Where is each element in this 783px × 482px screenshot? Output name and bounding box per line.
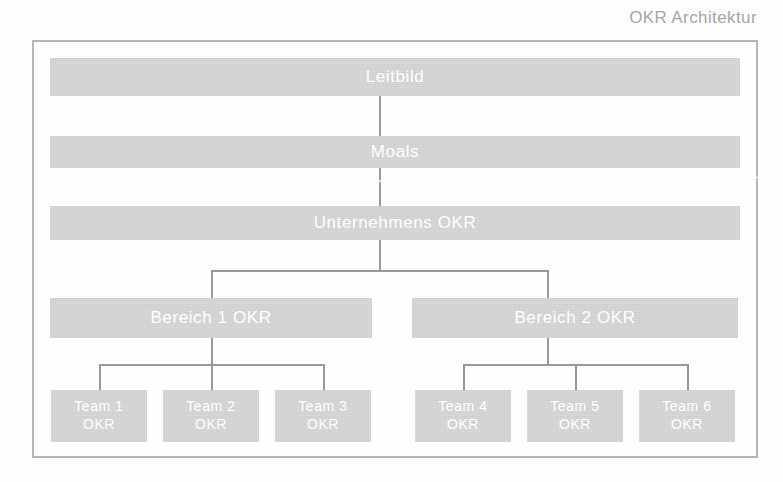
node-team-4-line1: Team 4 — [438, 398, 488, 414]
connector-bereich-1-stem — [211, 338, 213, 364]
node-unternehmens-okr[interactable]: Unternehmens OKR — [50, 206, 740, 240]
connector-bus-to-team-2 — [211, 364, 213, 390]
node-moals[interactable]: Moals — [50, 136, 740, 168]
node-team-3-okr[interactable]: Team 3 OKR — [275, 390, 371, 442]
connector-bus-to-team-3 — [323, 364, 325, 390]
node-team-2-line2: OKR — [195, 416, 227, 432]
node-leitbild-label: Leitbild — [366, 66, 425, 88]
connector-bus-to-team-4 — [463, 364, 465, 390]
connector-unternehmens-stem — [379, 240, 381, 270]
diagram-frame: Leitbild Moals Unternehmens OKR Bereich … — [32, 40, 758, 458]
node-unternehmens-okr-label: Unternehmens OKR — [314, 212, 477, 234]
node-team-3-line1: Team 3 — [298, 398, 348, 414]
scan-artifact-streak — [84, 176, 766, 185]
node-bereich-2-okr-label: Bereich 2 OKR — [514, 307, 635, 329]
node-team-2-okr[interactable]: Team 2 OKR — [163, 390, 259, 442]
node-bereich-1-okr-label: Bereich 1 OKR — [150, 307, 271, 329]
node-team-3-line2: OKR — [307, 416, 339, 432]
connector-bus-to-team-6 — [687, 364, 689, 390]
node-team-5-okr[interactable]: Team 5 OKR — [527, 390, 623, 442]
okr-architecture-diagram: OKR Architektur Leitbild Moals — [0, 0, 783, 482]
connector-bereich-bus — [211, 270, 549, 272]
node-team-5-line2: OKR — [559, 416, 591, 432]
node-team-6-okr[interactable]: Team 6 OKR — [639, 390, 735, 442]
node-team-6-okr-label: Team 6 OKR — [662, 398, 712, 434]
node-team-3-okr-label: Team 3 OKR — [298, 398, 348, 434]
node-team-5-okr-label: Team 5 OKR — [550, 398, 600, 434]
connector-bus-to-bereich-1 — [211, 270, 213, 298]
node-leitbild[interactable]: Leitbild — [50, 58, 740, 96]
node-team-5-line1: Team 5 — [550, 398, 600, 414]
node-bereich-1-okr[interactable]: Bereich 1 OKR — [50, 298, 372, 338]
connector-bus-to-team-5 — [575, 364, 577, 390]
node-team-1-okr[interactable]: Team 1 OKR — [51, 390, 147, 442]
node-bereich-2-okr[interactable]: Bereich 2 OKR — [412, 298, 738, 338]
node-team-4-okr[interactable]: Team 4 OKR — [415, 390, 511, 442]
connector-moals-to-unternehmens — [379, 168, 381, 206]
node-moals-label: Moals — [371, 141, 419, 163]
node-team-1-line1: Team 1 — [74, 398, 124, 414]
node-team-1-line2: OKR — [83, 416, 115, 432]
connector-bus-to-bereich-2 — [547, 270, 549, 298]
node-team-2-okr-label: Team 2 OKR — [186, 398, 236, 434]
node-team-1-okr-label: Team 1 OKR — [74, 398, 124, 434]
node-team-4-okr-label: Team 4 OKR — [438, 398, 488, 434]
node-team-2-line1: Team 2 — [186, 398, 236, 414]
connector-bus-to-team-1 — [99, 364, 101, 390]
connector-bereich-2-stem — [547, 338, 549, 364]
page-title: OKR Architektur — [629, 8, 757, 28]
node-team-6-line1: Team 6 — [662, 398, 712, 414]
connector-leitbild-to-moals — [379, 96, 381, 136]
node-team-4-line2: OKR — [447, 416, 479, 432]
node-team-6-line2: OKR — [671, 416, 703, 432]
